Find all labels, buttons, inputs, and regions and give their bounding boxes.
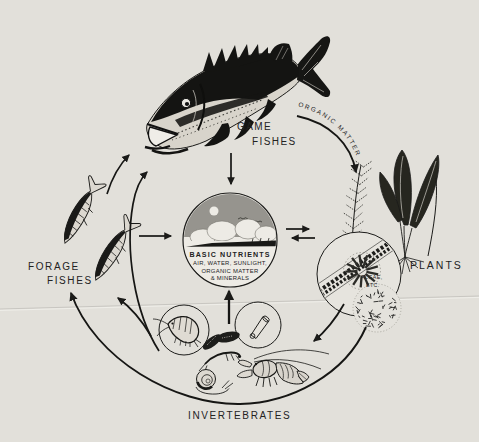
nutrients-line2: ORGANIC MATTER [201, 268, 258, 274]
nutrients-line1: AIR, WATER, SUNLIGHT, [193, 260, 267, 266]
algae-label-1: ALGAE, [361, 274, 383, 280]
game-fish-illustration [145, 36, 330, 153]
forage-fishes-label-2: FISHES [47, 275, 93, 286]
food-cycle-diagram: BASIC NUTRIENTS AIR, WATER, SUNLIGHT, OR… [0, 0, 479, 442]
forage-fishes-label-1: FORAGE [28, 261, 80, 272]
soft-dorsal-fin [269, 43, 292, 62]
paper-crease-line [0, 296, 479, 310]
invertebrates-illustration [153, 302, 329, 394]
copepod [153, 316, 201, 347]
nutrients-line3: & MINERALS [211, 275, 250, 281]
mayfly [199, 330, 241, 374]
nutrients-circle: BASIC NUTRIENTS AIR, WATER, SUNLIGHT, OR… [183, 193, 278, 287]
pin-organism [250, 315, 270, 339]
plankton-circle [353, 284, 401, 332]
arrow-invertebrates-to-foragefish [118, 298, 151, 336]
arrow-invertebrates-to-gamefish [130, 172, 159, 351]
arrow-outer-cycle [71, 293, 366, 404]
game-fishes-label-2: FISHES [252, 136, 297, 147]
snail [196, 370, 233, 395]
plant-stems [400, 221, 412, 257]
sun [210, 207, 219, 216]
invertebrates-label: INVERTEBRATES [188, 410, 291, 421]
cloud [207, 221, 237, 241]
algae-label-2: ETC. [366, 282, 380, 288]
arrow-organic-matter [297, 116, 356, 172]
nutrients-title: BASIC NUTRIENTS [189, 251, 270, 259]
game-fishes-label-1: GAME [237, 121, 272, 132]
plants-label: PLANTS [410, 259, 463, 271]
arrow-foragefish-to-gamefish [107, 155, 129, 194]
diagram-page: BASIC NUTRIENTS AIR, WATER, SUNLIGHT, OR… [0, 0, 479, 442]
cloud [255, 226, 277, 242]
